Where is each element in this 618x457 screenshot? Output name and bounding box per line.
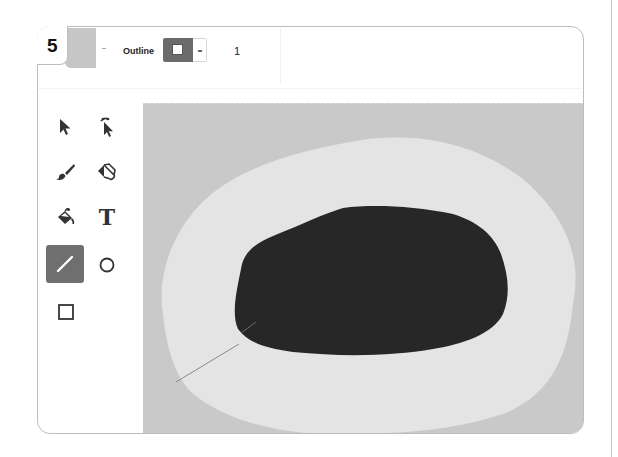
text-icon: T: [99, 206, 115, 228]
tool-select[interactable]: [47, 108, 85, 146]
tool-line[interactable]: [46, 245, 84, 283]
toolbar-separator: [280, 28, 281, 84]
paint-bucket-icon: [56, 208, 76, 226]
line-icon: [55, 254, 75, 274]
tool-fill[interactable]: [47, 198, 85, 236]
toolbar-divider: [38, 88, 582, 89]
tool-rectangle[interactable]: [47, 293, 85, 331]
brush-icon: [56, 163, 76, 181]
reshape-pointer-icon: [98, 116, 116, 138]
tool-circle[interactable]: [88, 246, 126, 284]
fill-dropdown-caret-icon[interactable]: [102, 48, 106, 49]
stroke-width-input[interactable]: 1: [234, 45, 240, 57]
step-number: 5: [47, 35, 58, 57]
circle-icon: [98, 256, 116, 274]
rectangle-icon: [57, 303, 75, 321]
page-right-rule: [611, 0, 612, 457]
fill-color-swatch[interactable]: [65, 28, 96, 68]
drawing-canvas[interactable]: [143, 103, 583, 433]
eraser-icon: [97, 163, 117, 181]
outline-dropdown-button[interactable]: [193, 38, 207, 62]
outline-color-swatch[interactable]: [163, 38, 193, 62]
step-badge: 5: [37, 26, 68, 65]
tool-eraser[interactable]: [88, 153, 126, 191]
chevron-down-icon: [198, 50, 202, 52]
outline-square-icon: [172, 44, 183, 55]
canvas-artwork: [143, 104, 583, 433]
arrow-pointer-icon: [58, 118, 74, 136]
tool-text[interactable]: T: [88, 198, 126, 236]
tool-reshape[interactable]: [88, 108, 126, 146]
tool-brush[interactable]: [47, 153, 85, 191]
outline-label: Outline: [123, 46, 154, 56]
